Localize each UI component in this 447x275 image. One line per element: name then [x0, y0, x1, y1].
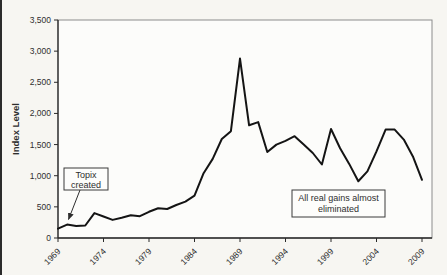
y-axis-ticks: 05001,0001,5002,0002,5003,0003,500 — [30, 15, 58, 243]
x-tick-label: 1999 — [315, 246, 336, 267]
annotation-text-line: eliminated — [318, 204, 359, 214]
scan-edge-line — [0, 0, 2, 275]
x-tick-label: 1969 — [42, 246, 63, 267]
x-tick-label: 2009 — [406, 246, 427, 267]
y-tick-label: 1,000 — [30, 171, 52, 181]
y-tick-label: 500 — [37, 202, 51, 212]
y-tick-label: 2,500 — [30, 77, 52, 87]
x-tick-label: 1989 — [224, 246, 245, 267]
x-tick-label: 2004 — [360, 246, 381, 267]
annotation-text-line: Topix — [75, 170, 97, 180]
y-tick-label: 2,000 — [30, 108, 52, 118]
x-axis-ticks: 196919741979198419891994199920042009 — [42, 238, 427, 267]
x-tick-label: 1979 — [133, 246, 154, 267]
y-tick-label: 3,000 — [30, 46, 52, 56]
annotation-text-line: All real gains almost — [298, 193, 379, 203]
x-tick-label: 1974 — [87, 246, 108, 267]
y-tick-label: 0 — [46, 233, 51, 243]
x-tick-label: 1994 — [269, 246, 290, 267]
annotation-text-line: created — [71, 180, 101, 190]
y-tick-label: 3,500 — [30, 15, 52, 25]
y-axis-title: Index Level — [10, 103, 21, 155]
y-tick-label: 1,500 — [30, 140, 52, 150]
topix-index-chart: 05001,0001,5002,0002,5003,0003,500 19691… — [0, 0, 447, 275]
x-tick-label: 1984 — [178, 246, 199, 267]
annotation-real-gains-eliminated: All real gains almost eliminated — [292, 190, 385, 217]
